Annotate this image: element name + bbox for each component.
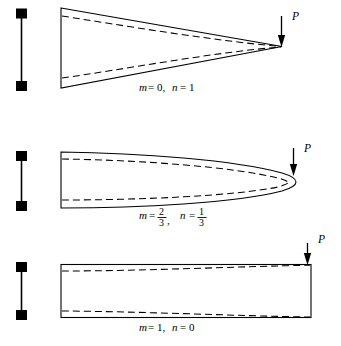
panel-3-support-symbol xyxy=(16,262,27,320)
support-block-top xyxy=(16,9,27,19)
panel-2-load-arrow xyxy=(290,148,297,176)
panel-1-caption: m = 0, n = 1 xyxy=(139,81,194,93)
panel-3-load-arrow xyxy=(304,243,311,265)
panel-2-caption-m-denominator: 3 xyxy=(159,217,164,228)
panel-1-support-symbol xyxy=(16,9,27,92)
panel-2-deflected-lower xyxy=(62,183,288,200)
support-block-bottom xyxy=(16,201,27,211)
panel-2-caption-m-numerator: 2 xyxy=(159,206,164,217)
panel-3-caption-m-eq: = 1, xyxy=(148,321,165,333)
panel-2-support-symbol xyxy=(16,151,27,211)
support-block-top xyxy=(16,151,27,161)
panel-1-caption-n-var: n xyxy=(172,81,178,93)
panel-1-caption-m-var: m xyxy=(139,81,147,93)
panel-1-load-label: P xyxy=(291,10,299,22)
panel-3-group: P m = 1, n = 0 xyxy=(16,233,325,333)
panel-3-caption-n-var: n xyxy=(172,321,178,333)
panel-2-caption-m-eq: = xyxy=(149,209,155,221)
load-arrow-head xyxy=(290,164,297,176)
buckling-shapes-diagram: P m = 0, n = 1 xyxy=(0,0,341,346)
support-block-bottom xyxy=(16,81,27,91)
panel-2-caption-n-numerator: 1 xyxy=(199,206,204,217)
panel-1-caption-n-eq: = 1 xyxy=(180,81,194,93)
panel-2-caption-m-comma: , xyxy=(167,214,170,226)
load-arrow-head xyxy=(278,35,285,47)
panel-1-caption-m-eq: = 0, xyxy=(148,81,165,93)
panel-3-load-label: P xyxy=(317,233,325,245)
figure-canvas: P m = 0, n = 1 xyxy=(0,0,341,346)
panel-1-outline xyxy=(61,8,282,88)
panel-2-caption-m-var: m xyxy=(139,209,147,221)
panel-1-deflected-upper xyxy=(62,16,281,47)
panel-3-deflected-lower xyxy=(62,311,310,317)
panel-3-outline xyxy=(61,265,311,318)
panel-2-caption-n-eq: = xyxy=(189,209,195,221)
panel-3-caption-m-var: m xyxy=(139,321,147,333)
panel-2-load-label: P xyxy=(303,142,311,154)
panel-1-group: P m = 0, n = 1 xyxy=(16,8,299,93)
support-block-bottom xyxy=(16,310,27,320)
panel-2-caption-n-denominator: 3 xyxy=(199,217,204,228)
load-arrow-head xyxy=(304,253,311,265)
panel-1-load-arrow xyxy=(278,16,285,47)
panel-3-caption: m = 1, n = 0 xyxy=(139,321,195,333)
panel-2-caption-n-var: n xyxy=(180,209,186,221)
panel-1-deflected-lower xyxy=(62,47,281,78)
panel-2-group: P m = 2 3 , n = 1 3 xyxy=(16,142,311,228)
panel-2-deflected-upper xyxy=(62,159,288,183)
support-block-top xyxy=(16,262,27,272)
panel-3-deflected-upper xyxy=(62,265,310,271)
panel-3-caption-n-eq: = 0 xyxy=(180,321,195,333)
panel-2-caption: m = 2 3 , n = 1 3 xyxy=(139,206,207,228)
